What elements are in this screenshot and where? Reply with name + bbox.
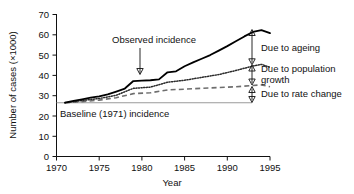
y-tick-label: 30 xyxy=(38,90,49,101)
y-tick-label: 10 xyxy=(38,131,49,142)
y-axis-title: Number of cases (×1000) xyxy=(7,31,18,138)
y-axis-ticks xyxy=(53,15,57,157)
y-tick-label: 60 xyxy=(38,29,49,40)
x-axis-title: Year xyxy=(162,177,181,188)
x-tick-label: 1995 xyxy=(259,162,280,173)
series-rate-change xyxy=(65,85,270,103)
due-to-ageing-label: Due to ageing xyxy=(261,42,320,53)
chart-svg: 70 60 50 40 30 20 10 0 1970 1975 1980 19… xyxy=(0,0,354,194)
y-tick-label: 0 xyxy=(44,151,49,162)
x-tick-labels: 1970 1975 1980 1985 1990 1995 xyxy=(46,162,281,173)
due-to-ageing-arrow xyxy=(249,30,255,65)
x-axis-ticks xyxy=(57,157,271,161)
y-tick-label: 70 xyxy=(38,9,49,20)
x-tick-label: 1980 xyxy=(131,162,152,173)
y-tick-labels: 70 60 50 40 30 20 10 0 xyxy=(38,9,49,162)
x-tick-label: 1985 xyxy=(174,162,195,173)
y-tick-label: 40 xyxy=(38,70,49,81)
observed-incidence-annotation: Observed incidence xyxy=(112,34,196,75)
baseline-incidence-label: Baseline (1971) incidence xyxy=(60,108,169,119)
due-to-rate-change-arrow xyxy=(249,87,255,103)
x-tick-label: 1975 xyxy=(89,162,110,173)
y-tick-label: 20 xyxy=(38,111,49,122)
due-to-population-growth-label-line2: growth xyxy=(261,74,290,85)
observed-incidence-label: Observed incidence xyxy=(112,34,196,45)
due-to-rate-change-label: Due to rate change xyxy=(261,88,342,99)
due-to-population-growth-arrow xyxy=(249,65,255,85)
x-tick-label: 1990 xyxy=(217,162,238,173)
y-tick-label: 50 xyxy=(38,50,49,61)
due-to-population-growth-label-line1: Due to population xyxy=(261,63,335,74)
x-tick-label: 1970 xyxy=(46,162,67,173)
chart-figure: 70 60 50 40 30 20 10 0 1970 1975 1980 19… xyxy=(0,0,354,194)
decomposition-annotations: Due to ageing Due to population growth D… xyxy=(249,30,342,103)
